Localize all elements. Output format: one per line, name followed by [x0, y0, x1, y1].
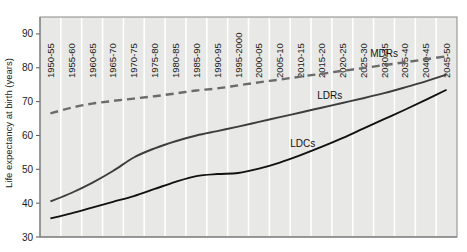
x-tick-label: 2045-50 [441, 43, 452, 78]
y-axis-title: Life expectancy at birth (years) [3, 58, 14, 188]
x-tick-label: 2000-05 [253, 43, 264, 78]
x-tick-label: 2040-45 [420, 43, 431, 78]
x-tick-label: 1955-60 [66, 43, 77, 78]
chart-container: 30405060708090 1950-551955-601960-651965… [0, 0, 467, 252]
y-tick-label: 30 [22, 232, 34, 243]
y-tick-label: 80 [22, 62, 34, 73]
y-tick-label: 50 [22, 164, 34, 175]
x-tick-label: 2035-40 [399, 43, 410, 78]
life-expectancy-line-chart: 30405060708090 1950-551955-601960-651965… [0, 0, 467, 252]
x-tick-label: 1975-80 [149, 43, 160, 78]
x-tick-label: 1985-90 [191, 43, 202, 78]
x-tick-label: 1995-2000 [233, 33, 244, 78]
y-tick-label: 40 [22, 198, 34, 209]
y-tick-label: 70 [22, 96, 34, 107]
series-label-mdrs: MDRs [370, 48, 398, 59]
x-tick-label: 2025-30 [358, 43, 369, 78]
x-tick-label: 1950-55 [45, 43, 56, 78]
x-tick-label: 1965-70 [107, 43, 118, 78]
x-tick-label: 2010-15 [295, 43, 306, 78]
x-tick-label: 1980-85 [170, 43, 181, 78]
x-tick-label: 2005-10 [274, 43, 285, 78]
x-tick-label: 2020-25 [337, 43, 348, 78]
x-tick-label: 1990-95 [212, 43, 223, 78]
series-label-ldrs: LDRs [317, 90, 342, 101]
x-tick-label: 1970-75 [128, 43, 139, 78]
y-tick-label: 90 [22, 28, 34, 39]
y-tick-label: 60 [22, 130, 34, 141]
x-tick-label: 1960-65 [87, 43, 98, 78]
series-label-ldcs: LDCs [290, 138, 315, 149]
